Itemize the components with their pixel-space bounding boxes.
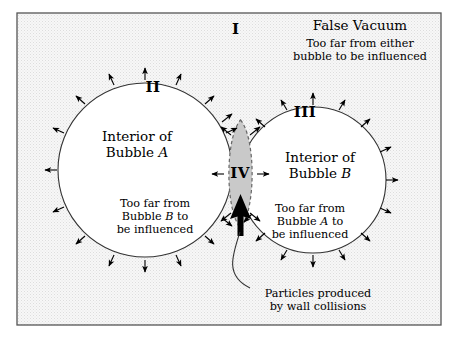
bubble-a-note: Too far from Bubble B to be influenced bbox=[117, 197, 194, 237]
bubble-b-note-prefix: Bubble bbox=[277, 215, 317, 228]
bubble-b-note-line-2: Bubble A to bbox=[272, 215, 349, 228]
bubble-a-note-line-1: Too far from bbox=[117, 197, 194, 210]
bubble-a-title-line-2: Bubble A bbox=[102, 145, 172, 161]
bubble-b-note-suffix: to bbox=[332, 215, 343, 228]
bubble-b-note: Too far from Bubble A to be influenced bbox=[272, 202, 349, 242]
bubble-a-note-suffix: to bbox=[177, 210, 188, 223]
bubble-a-title-line-1: Interior of bbox=[102, 129, 172, 145]
bubble-a-note-line-2: Bubble B to bbox=[117, 210, 194, 223]
bubble-b-title-letter: B bbox=[341, 165, 351, 181]
bubble-b-note-line-3: be influenced bbox=[272, 228, 349, 241]
false-vacuum-title: False Vacuum bbox=[313, 18, 407, 34]
particle-caption-line-1: Particles produced bbox=[265, 287, 372, 300]
false-vacuum-description: Too far from either bubble to be influen… bbox=[293, 37, 427, 63]
bubble-a-title-letter: A bbox=[158, 144, 168, 160]
particle-caption: Particles produced by wall collisions bbox=[265, 287, 372, 313]
bubble-a-note-letter: B bbox=[165, 210, 173, 223]
bubble-b-title: Interior of Bubble B bbox=[285, 150, 355, 182]
bubble-a-title: Interior of Bubble A bbox=[102, 129, 172, 161]
bubble-a-title-prefix: Bubble bbox=[106, 144, 154, 160]
bubble-collision-figure: I False Vacuum Too far from either bubbl… bbox=[0, 0, 458, 346]
particle-caption-line-2: by wall collisions bbox=[265, 300, 372, 313]
false-vacuum-line-1: Too far from either bbox=[293, 37, 427, 50]
region-label-iv: IV bbox=[230, 165, 250, 183]
bubble-b-title-prefix: Bubble bbox=[289, 165, 337, 181]
bubble-a-note-line-3: be influenced bbox=[117, 223, 194, 236]
region-label-ii: II bbox=[145, 79, 160, 97]
region-label-iii: III bbox=[294, 104, 317, 122]
bubble-b-title-line-1: Interior of bbox=[285, 150, 355, 166]
bubble-a-note-prefix: Bubble bbox=[122, 210, 162, 223]
bubble-b-note-letter: A bbox=[320, 215, 328, 228]
bubble-b-title-line-2: Bubble B bbox=[285, 166, 355, 182]
false-vacuum-line-2: bubble to be influenced bbox=[293, 50, 427, 63]
region-label-i: I bbox=[232, 21, 240, 39]
bubble-b-note-line-1: Too far from bbox=[272, 202, 349, 215]
